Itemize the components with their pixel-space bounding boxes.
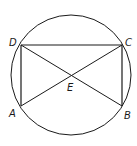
label-a: A xyxy=(8,108,16,119)
label-c: C xyxy=(125,37,132,48)
geometry-diagram: D C A B E xyxy=(0,0,137,146)
label-d: D xyxy=(9,37,17,48)
label-e: E xyxy=(67,82,74,93)
label-b: B xyxy=(124,110,131,121)
